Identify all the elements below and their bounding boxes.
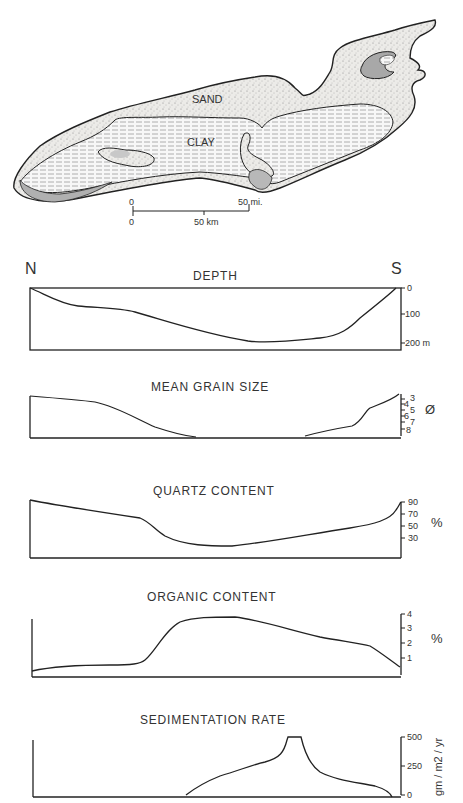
- grain-tick-6: 6: [404, 411, 409, 421]
- grain-profile: [30, 394, 399, 437]
- grain-title: MEAN GRAIN SIZE: [151, 380, 269, 394]
- depth-tick-0: 0: [407, 283, 412, 293]
- scale-mi-end: 50 mi.: [238, 197, 263, 207]
- organic-tick-1: 1: [407, 653, 412, 663]
- depth-title: DEPTH: [193, 269, 238, 283]
- grain-tick-4: 4: [404, 399, 409, 409]
- dark-patch-west: [110, 150, 130, 158]
- quartz-tick-30: 30: [408, 533, 418, 543]
- organic-profile: [32, 617, 400, 671]
- quartz-profile: [30, 500, 401, 546]
- organic-chart: ORGANIC CONTENT 4 3 2 1 %: [32, 590, 443, 677]
- organic-title: ORGANIC CONTENT: [147, 590, 276, 604]
- scale-bar: [133, 204, 249, 216]
- organic-tick-4: 4: [407, 609, 412, 619]
- clay-label: CLAY: [187, 136, 216, 148]
- organic-tick-3: 3: [407, 623, 412, 633]
- sedimentation-chart: SEDIMENTATION RATE 500 250 0 gm / m2 / y…: [33, 713, 444, 800]
- grain-tick-8: 8: [406, 425, 411, 435]
- scale-km-mid: 50 km: [194, 217, 219, 227]
- organic-unit: %: [431, 631, 443, 646]
- sed-tick-500: 500: [407, 732, 422, 742]
- quartz-title: QUARTZ CONTENT: [153, 484, 275, 498]
- figure: SAND CLAY 0 50 mi. 0 50 km N S DEPTH 0 1…: [0, 0, 463, 803]
- north-label: N: [25, 260, 37, 277]
- sed-profile: [186, 737, 392, 797]
- depth-tick-2: 200 m: [405, 338, 430, 348]
- grain-tick-3: 3: [410, 393, 415, 403]
- depth-profile: [30, 288, 396, 342]
- sand-label: SAND: [192, 93, 223, 105]
- lake-map: SAND CLAY 0 50 mi. 0 50 km: [14, 20, 436, 227]
- quartz-tick-70: 70: [408, 509, 418, 519]
- depth-tick-1: 100: [405, 309, 420, 319]
- grain-size-chart: MEAN GRAIN SIZE 3 4 5 6 7 8 Ø: [30, 380, 435, 438]
- grain-unit-phi: Ø: [425, 402, 435, 417]
- grain-tick-5: 5: [410, 405, 415, 415]
- organic-tick-2: 2: [407, 638, 412, 648]
- scale-km-zero: 0: [129, 217, 134, 227]
- sed-tick-0: 0: [407, 790, 412, 800]
- quartz-chart: QUARTZ CONTENT 90 70 50 30 %: [30, 484, 443, 558]
- south-label: S: [391, 260, 402, 277]
- scale-mi-zero: 0: [129, 197, 134, 207]
- sed-unit: gm / m2 / yr: [432, 738, 444, 796]
- depth-chart: N S DEPTH 0 100 200 m: [25, 260, 430, 350]
- quartz-unit: %: [431, 515, 443, 530]
- quartz-tick-50: 50: [408, 521, 418, 531]
- quartz-tick-90: 90: [408, 497, 418, 507]
- sed-tick-250: 250: [407, 761, 422, 771]
- sed-title: SEDIMENTATION RATE: [140, 713, 286, 727]
